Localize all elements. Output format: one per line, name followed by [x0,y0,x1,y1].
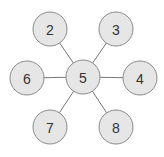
node-5: 5 [66,60,100,94]
node-3: 3 [99,12,133,46]
node-label: 3 [112,22,120,38]
nodes: 5236478 [10,12,157,144]
node-label: 5 [79,70,87,86]
star-graph-diagram: 5236478 [0,0,164,157]
node-8: 8 [99,110,133,144]
node-label: 4 [136,71,144,87]
node-label: 2 [46,22,54,38]
node-6: 6 [10,61,44,95]
node-label: 7 [46,120,54,136]
node-2: 2 [33,12,67,46]
node-7: 7 [33,110,67,144]
node-4: 4 [123,61,157,95]
node-label: 6 [23,71,31,87]
node-label: 8 [112,120,120,136]
